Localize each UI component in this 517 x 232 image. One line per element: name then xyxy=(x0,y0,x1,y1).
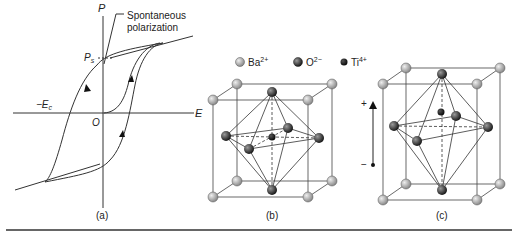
origin-label: O xyxy=(92,117,100,128)
plus-label: + xyxy=(361,98,367,109)
ti-ion-icon xyxy=(341,59,348,66)
caption-a: (a) xyxy=(96,210,108,221)
arrow-up-icon xyxy=(128,75,134,82)
caption-b: (b) xyxy=(266,210,278,221)
hysteresis-panel xyxy=(13,14,194,208)
lower-saturation-line xyxy=(15,164,100,190)
arrow-up-icon xyxy=(369,101,377,109)
ba-ion-icon xyxy=(236,58,245,67)
ec-label: −Ec xyxy=(36,99,53,111)
atoms-b xyxy=(208,79,337,202)
svg-text:Ti4+: Ti4+ xyxy=(351,56,367,68)
caption-c: (c) xyxy=(436,210,448,221)
minus-label: − xyxy=(361,159,367,170)
figure-canvas: P E O Ps −Ec Spontaneous polarization (a… xyxy=(0,0,517,232)
e-axis-label: E xyxy=(195,107,203,119)
arrow-down-icon xyxy=(84,84,91,92)
annotation-line-2: polarization xyxy=(127,22,178,33)
legend: Ba2+ O2− Ti4+ xyxy=(236,56,367,68)
ps-label: Ps xyxy=(84,52,95,64)
annotation-line-1: Spontaneous xyxy=(127,10,186,21)
p-axis-label: P xyxy=(98,2,106,14)
polarization-arrow xyxy=(369,101,377,167)
o-ion-icon xyxy=(294,58,303,67)
cubic-cell-panel xyxy=(213,84,332,197)
upper-saturation-line xyxy=(110,36,193,58)
tetragonal-cell-panel xyxy=(383,68,500,200)
svg-text:Ba2+: Ba2+ xyxy=(248,56,268,68)
svg-text:O2−: O2− xyxy=(306,56,322,68)
